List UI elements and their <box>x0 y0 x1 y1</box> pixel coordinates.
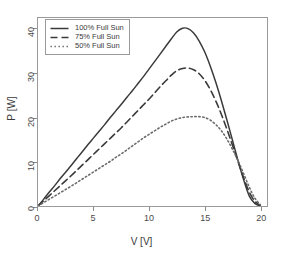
legend-label: 50% Full Sun <box>75 42 120 50</box>
legend-line-swatch-dashed <box>50 34 69 41</box>
pv-power-curve-figure: 010203040 05101520 P [W] V [V] 100% Full… <box>0 0 283 258</box>
legend-item[interactable]: 75% Full Sun <box>50 33 124 41</box>
y-tick-label: 10 <box>26 161 36 181</box>
x-axis-label: V [V] <box>0 236 283 247</box>
y-axis-label: P [W] <box>6 79 17 139</box>
x-tick-label: 0 <box>22 213 52 223</box>
legend-item[interactable]: 50% Full Sun <box>50 42 124 50</box>
x-tick-label: 10 <box>134 213 164 223</box>
legend-item[interactable]: 100% Full Sun <box>50 24 124 32</box>
y-tick-label: 30 <box>26 72 36 92</box>
x-tick-mark <box>205 207 206 211</box>
legend-label: 75% Full Sun <box>75 33 120 41</box>
legend: 100% Full Sun75% Full Sun50% Full Sun <box>45 19 130 55</box>
x-tick-label: 20 <box>246 213 276 223</box>
x-tick-label: 5 <box>78 213 108 223</box>
legend-line-swatch-solid <box>50 25 69 32</box>
x-tick-label: 15 <box>190 213 220 223</box>
legend-line-swatch-dotted <box>50 43 69 50</box>
x-tick-mark <box>261 207 262 211</box>
y-tick-label: 20 <box>26 117 36 137</box>
x-tick-mark <box>37 207 38 211</box>
x-tick-mark <box>149 207 150 211</box>
series-line-3 <box>38 117 260 206</box>
legend-label: 100% Full Sun <box>75 24 124 32</box>
x-tick-mark <box>93 207 94 211</box>
y-tick-label: 40 <box>26 27 36 47</box>
